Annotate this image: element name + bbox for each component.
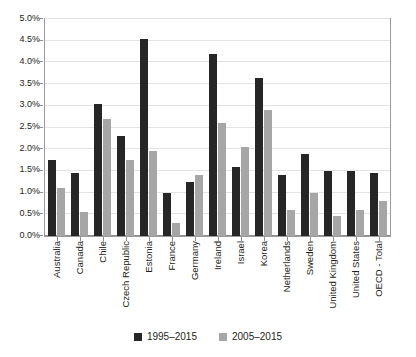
x-axis-label-slot: Sweden — [298, 241, 321, 325]
y-axis-tickmark — [38, 213, 43, 214]
y-axis-tickmark — [38, 192, 43, 193]
bars-container — [45, 19, 390, 236]
y-axis-tick-label: 2.0% — [0, 144, 40, 153]
bar — [333, 216, 341, 236]
bar — [356, 210, 364, 236]
x-axis-label-slot: United States — [344, 241, 367, 325]
y-axis-tickmark — [38, 18, 43, 19]
chart-legend: 1995–20152005–2015 — [0, 332, 416, 342]
legend-label: 2005–2015 — [232, 332, 282, 342]
y-axis-tick-label: 0.5% — [0, 209, 40, 218]
y-axis-tickmark — [38, 235, 43, 236]
y-axis-tickmark — [38, 127, 43, 128]
bar — [209, 54, 217, 236]
bar — [278, 175, 286, 236]
y-axis-tickmark — [38, 61, 43, 62]
bar — [186, 182, 194, 236]
bar — [232, 167, 240, 236]
legend-label: 1995–2015 — [147, 332, 197, 342]
y-axis-tick-label: 2.5% — [0, 122, 40, 131]
y-axis-tick-label: 3.5% — [0, 79, 40, 88]
bar-group — [252, 19, 275, 236]
x-axis-label-slot: Ireland — [206, 241, 229, 325]
y-axis-tick-label: 3.0% — [0, 100, 40, 109]
bar-chart: 0.0%0.5%1.0%1.5%2.0%2.5%3.0%3.5%4.0%4.5%… — [0, 0, 416, 357]
y-axis-tick-label: 5.0% — [0, 14, 40, 23]
x-axis-label: Australia — [52, 241, 62, 278]
x-axis-label: Estonia — [144, 241, 154, 273]
bar-group — [206, 19, 229, 236]
bar — [218, 123, 226, 236]
legend-swatch-icon — [134, 333, 142, 341]
bar — [172, 223, 180, 236]
legend-swatch-icon — [219, 333, 227, 341]
y-axis-tick-label: 1.0% — [0, 187, 40, 196]
x-axis-label-slot: United Kingdom — [321, 241, 344, 325]
bar — [103, 119, 111, 236]
bar — [149, 151, 157, 236]
bar — [94, 104, 102, 236]
bar — [195, 175, 203, 236]
x-axis-label: Korea — [259, 241, 269, 266]
bar-group — [344, 19, 367, 236]
bar-group — [367, 19, 390, 236]
y-axis-tickmark — [38, 148, 43, 149]
bar — [163, 193, 171, 236]
bar-group — [321, 19, 344, 236]
x-axis-label-slot: Czech Republic — [114, 241, 137, 325]
bar — [117, 136, 125, 236]
x-axis-label: Germany — [190, 241, 200, 280]
bar — [126, 160, 134, 236]
bar — [379, 201, 387, 236]
x-axis-label: Czech Republic — [121, 241, 131, 308]
bar — [301, 154, 309, 236]
x-axis-label-slot: France — [160, 241, 183, 325]
bar — [347, 171, 355, 236]
y-axis-tickmark — [38, 170, 43, 171]
bar-group — [137, 19, 160, 236]
x-axis-label-slot: Korea — [252, 241, 275, 325]
bar — [57, 188, 65, 236]
x-axis-label: Canada — [75, 241, 85, 274]
x-axis-label: Netherlands — [282, 241, 292, 292]
y-axis-tickmark — [38, 40, 43, 41]
x-axis-label-slot: OECD - Total — [367, 241, 390, 325]
x-axis-label-slot: Germany — [183, 241, 206, 325]
x-axis-label: OECD - Total — [374, 241, 384, 297]
x-axis-label-slot: Netherlands — [275, 241, 298, 325]
bar — [71, 173, 79, 236]
x-axis-label-slot: Australia — [45, 241, 68, 325]
legend-item[interactable]: 1995–2015 — [134, 332, 197, 342]
bar-group — [275, 19, 298, 236]
y-axis-tick-label: 1.5% — [0, 165, 40, 174]
bar — [255, 78, 263, 236]
x-axis-label: Ireland — [213, 241, 223, 270]
x-axis-label: United States — [351, 241, 361, 298]
bar — [310, 193, 318, 236]
x-axis-label: United Kingdom — [328, 241, 338, 309]
x-axis-label-slot: Estonia — [137, 241, 160, 325]
bar — [264, 110, 272, 236]
x-axis-label: Israel — [236, 241, 246, 264]
bar-group — [160, 19, 183, 236]
x-axis-label-slot: Chile — [91, 241, 114, 325]
bar — [241, 147, 249, 236]
bar — [80, 212, 88, 236]
x-axis-label: Chile — [98, 241, 108, 263]
bar — [140, 39, 148, 236]
y-axis-tickmark — [38, 105, 43, 106]
x-axis-labels: AustraliaCanadaChileCzech RepublicEstoni… — [45, 241, 390, 325]
bar-group — [114, 19, 137, 236]
y-axis-tick-label: 4.5% — [0, 35, 40, 44]
bar-group — [68, 19, 91, 236]
legend-item[interactable]: 2005–2015 — [219, 332, 282, 342]
bar — [48, 160, 56, 236]
bar-group — [298, 19, 321, 236]
x-axis-label: France — [167, 241, 177, 271]
x-axis-label: Sweden — [305, 241, 315, 275]
bar-group — [91, 19, 114, 236]
bar — [324, 171, 332, 236]
x-axis-label-slot: Canada — [68, 241, 91, 325]
y-axis-tick-label: 0.0% — [0, 231, 40, 240]
bar — [287, 210, 295, 236]
